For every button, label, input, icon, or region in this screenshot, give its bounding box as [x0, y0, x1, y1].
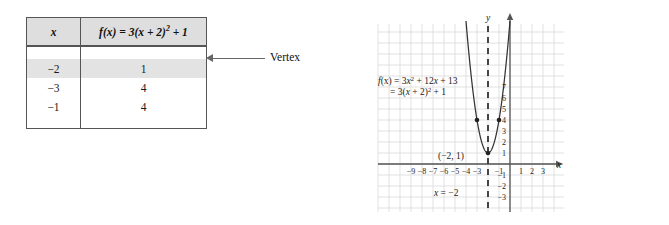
grid-lines — [378, 24, 564, 212]
function-equation-line-1: f(x) = 3x2 + 12x + 13 — [378, 75, 458, 88]
x-tick-label: −8 — [418, 167, 427, 176]
y-tick-label: 5 — [502, 105, 506, 114]
vertex-callout: Vertex — [206, 51, 316, 67]
y-tick-label: −3 — [497, 193, 506, 202]
callout-leader-line — [210, 58, 265, 59]
x-tick-label: −5 — [451, 167, 460, 176]
column-header-fx: f(x) = 3(x + 2)2 + 1 — [81, 18, 207, 47]
cell-fx: 1 — [81, 59, 207, 78]
x-tick-label: −4 — [462, 167, 471, 176]
spacer-cell-fx — [81, 46, 207, 59]
function-value-table: x f(x) = 3(x + 2)2 + 1 −2 1 −3 4 −1 — [26, 17, 207, 129]
spacer-cell-x — [27, 116, 81, 129]
fx-eq: = 3( — [116, 26, 138, 38]
cell-x: −1 — [27, 97, 81, 116]
y-tick-label: 3 — [502, 127, 506, 136]
table-row: −1 4 — [27, 97, 207, 116]
column-header-x: x — [27, 18, 81, 47]
eq1-eq: = 3 — [392, 76, 407, 86]
x-axis-label: x — [556, 160, 562, 170]
y-tick-label: −1 — [497, 171, 506, 180]
table-spacer-row — [27, 116, 207, 129]
sym-eq: = −2 — [438, 188, 458, 198]
table-row: −3 4 — [27, 78, 207, 97]
eq1-tail: + 12 — [414, 76, 434, 86]
x-tick-label: −9 — [407, 167, 416, 176]
value-table-figure: x f(x) = 3(x + 2)2 + 1 −2 1 −3 4 −1 — [26, 17, 207, 111]
table-spacer-row — [27, 46, 207, 59]
eq2-eq: = 3( — [390, 87, 406, 98]
fx-tail: + 2) — [144, 26, 166, 38]
plotted-point — [475, 118, 480, 123]
vertex-callout-label: Vertex — [270, 51, 300, 63]
eq1-end: + 13 — [438, 76, 458, 86]
y-tick-label: 1 — [502, 149, 506, 158]
vertex-point-label: (−2, 1) — [438, 151, 464, 162]
table-header: x f(x) = 3(x + 2)2 + 1 — [27, 18, 207, 47]
y-axis-label: y — [485, 13, 491, 23]
table-body: −2 1 −3 4 −1 4 — [27, 46, 207, 129]
eq2-tail: + 2) — [410, 87, 428, 98]
x-tick-label: 2 — [530, 167, 534, 176]
eq2-end: + 1 — [431, 87, 446, 97]
y-tick-label: 4 — [502, 116, 506, 125]
plotted-point — [497, 118, 502, 123]
graph-svg: −9−8−7−6−5−4−3−11237654321−1−2−3 y x f(x… — [376, 6, 566, 218]
y-tick-label: −2 — [497, 182, 506, 191]
axis-of-symmetry-label: x = −2 — [433, 188, 459, 198]
spacer-cell-x — [27, 46, 81, 59]
spacer-cell-fx — [81, 116, 207, 129]
x-tick-label: −3 — [473, 167, 482, 176]
eq1-px: (x) — [381, 76, 392, 87]
table-row: −2 1 — [27, 59, 207, 78]
x-tick-label: −6 — [440, 167, 449, 176]
x-tick-label: −7 — [429, 167, 438, 176]
cell-fx: 4 — [81, 78, 207, 97]
column-header-x-label: x — [51, 26, 57, 38]
table-header-row: x f(x) = 3(x + 2)2 + 1 — [27, 18, 207, 47]
cell-x: −3 — [27, 78, 81, 97]
plotted-point — [486, 151, 491, 156]
fx-end: + 1 — [170, 26, 188, 38]
function-equation-line-2: = 3(x + 2)2 + 1 — [390, 86, 446, 99]
fx-paren-x: (x) — [103, 26, 116, 38]
y-tick-label: 2 — [502, 138, 506, 147]
x-tick-label: 1 — [519, 167, 523, 176]
cell-x: −2 — [27, 59, 81, 78]
parabola-graph-figure: −9−8−7−6−5−4−3−11237654321−1−2−3 y x f(x… — [376, 6, 566, 218]
axis-tick-labels: −9−8−7−6−5−4−3−11237654321−1−2−3 — [407, 83, 545, 202]
cell-fx: 4 — [81, 97, 207, 116]
x-tick-label: 3 — [541, 167, 545, 176]
